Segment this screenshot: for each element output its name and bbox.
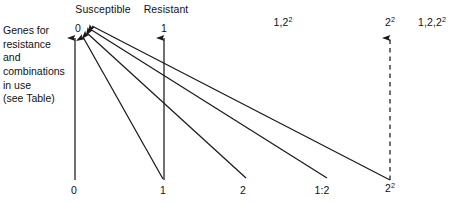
genes-note-line-5: in use [3,79,69,93]
top-node-label-1: 1 [161,22,167,36]
bottom-node-label-1: 1 [160,184,166,198]
edge-2-to-0 [87,33,246,178]
top-node-label-2sq: 22 [385,16,395,30]
edge-1-2-to-0 [90,29,327,178]
top-node-label-1-2-2sq: 1,2,22 [418,16,446,30]
top-node-label-1-2sq: 1,22 [273,16,292,30]
column-header-susceptible: Susceptible [75,3,130,17]
column-header-resistant: Resistant [144,3,189,17]
genes-note-line-6: (see Table) [3,92,69,106]
edge-1-to-0 [83,37,163,179]
bottom-node-label-0: 0 [71,184,77,198]
genes-note-line-4: combinations [3,65,69,79]
genes-note-line-2: resistance [3,38,69,52]
top-node-label-0: 0 [75,22,81,36]
bottom-node-label-1-2: 1:2 [315,184,330,198]
edge-2sq-to-0 [92,26,390,180]
genes-note-line-3: and [3,51,69,65]
genes-note: Genes for resistance and combinations in… [3,24,69,106]
bottom-node-label-2: 2 [240,184,246,198]
genes-note-line-1: Genes for [3,24,69,38]
bottom-node-label-2sq: 22 [385,182,395,196]
gene-resistance-flow-diagram: Genes for resistance and combinations in… [0,0,453,203]
